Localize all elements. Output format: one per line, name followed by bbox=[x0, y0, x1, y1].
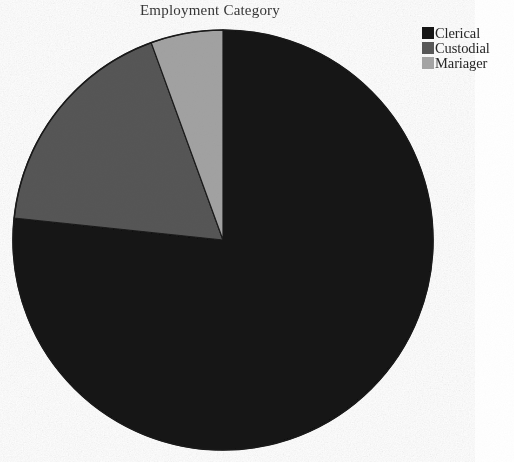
chart-legend: Clerical Custodial Mariager bbox=[422, 26, 514, 71]
legend-swatch-clerical bbox=[422, 27, 434, 39]
legend-item-custodial[interactable]: Custodial bbox=[422, 41, 514, 56]
legend-item-mariager[interactable]: Mariager bbox=[422, 56, 514, 71]
legend-swatch-custodial bbox=[422, 42, 434, 54]
pie-chart-figure: Employment Category bbox=[0, 0, 514, 462]
legend-label-clerical: Clerical bbox=[435, 26, 480, 41]
legend-item-clerical[interactable]: Clerical bbox=[422, 26, 514, 41]
legend-swatch-mariager bbox=[422, 57, 434, 69]
legend-label-custodial: Custodial bbox=[435, 41, 490, 56]
legend-label-mariager: Mariager bbox=[435, 56, 487, 71]
